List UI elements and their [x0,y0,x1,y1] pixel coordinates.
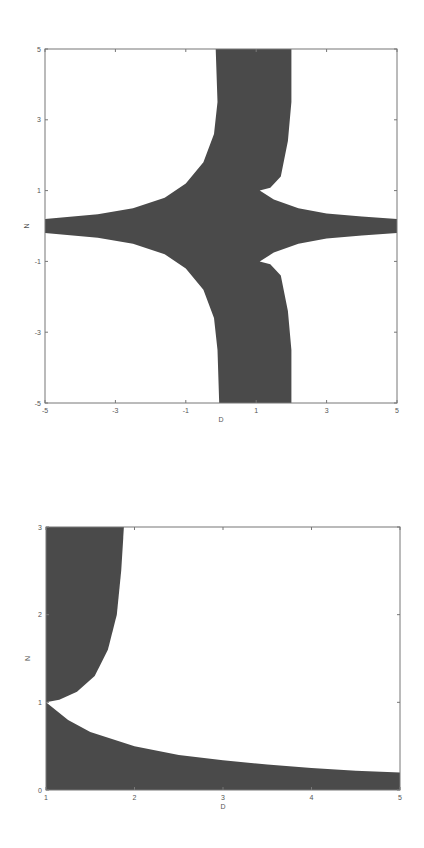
x-axis-label: D [220,803,225,810]
y-tick-label: 5 [37,46,41,53]
x-axis-label: D [218,416,223,423]
x-tick-label: 2 [133,794,137,801]
x-tick-label: 3 [325,407,329,414]
y-tick-label: 2 [38,611,42,618]
upper-left-region [46,527,124,702]
y-tick-label: 1 [37,187,41,194]
y-tick-label: -3 [35,329,41,336]
y-tick-label: -1 [35,258,41,265]
x-tick-label: 3 [221,794,225,801]
y-axis-label: N [23,223,30,228]
y-tick-label: 1 [38,699,42,706]
x-tick-label: 1 [254,407,258,414]
x-tick-label: -1 [183,407,189,414]
y-tick-label: 0 [38,787,42,794]
x-tick-label: -5 [42,407,48,414]
x-tick-label: -3 [112,407,118,414]
figure-canvas: -5-3-1135-5-3-1135DN123450123DN [0,0,424,848]
y-axis-label: N [24,656,31,661]
lower-region [46,702,400,790]
upper-vertical-band [45,49,397,403]
x-tick-label: 1 [44,794,48,801]
y-tick-label: 3 [38,524,42,531]
y-tick-label: 3 [37,116,41,123]
x-tick-label: 5 [395,407,399,414]
chart-1: -5-3-1135-5-3-1135DN [23,46,399,424]
chart-2: 123450123DN [24,524,402,811]
y-tick-label: -5 [35,400,41,407]
x-tick-label: 5 [398,794,402,801]
x-tick-label: 4 [310,794,314,801]
